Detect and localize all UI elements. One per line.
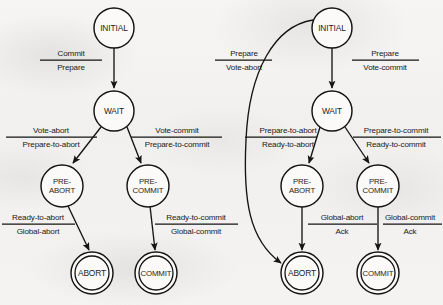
state-node-pre-abort[interactable]: PRE- ABORT <box>41 165 83 207</box>
state-node-label-line1: PRE- <box>369 177 388 186</box>
edge-label-wait-precommit: Prepare-to-commit Ready-to-commit <box>353 126 441 149</box>
state-node-initial[interactable]: INITIAL <box>312 8 352 48</box>
state-node-abort[interactable]: ABORT <box>71 252 113 294</box>
state-diagram-figure: Commit Prepare Vote-abort Prepare-to-abo… <box>0 0 443 305</box>
state-node-label: COMMIT <box>362 269 393 278</box>
state-node-pre-abort[interactable]: PRE- ABORT <box>281 165 323 207</box>
state-node-label-line1: PRE- <box>53 177 72 186</box>
edge-label-initial-wait: Prepare Vote-commit <box>352 49 419 72</box>
edge-label-initial-wait: Commit Prepare <box>40 49 102 72</box>
edge-label-bottom: Prepare <box>57 63 85 72</box>
state-node-label: WAIT <box>104 106 124 116</box>
edge-label-preabort-abort: Global-abort Ack <box>308 213 377 236</box>
edge-label-top: Prepare-to-commit <box>364 126 429 135</box>
state-node-label: WAIT <box>322 106 342 116</box>
edge-label-bottom: Ack <box>335 227 349 236</box>
coordinator-state-diagram: Commit Prepare Vote-abort Prepare-to-abo… <box>2 8 238 294</box>
state-node-commit[interactable]: COMMIT <box>135 252 177 294</box>
edge-label-bottom: Ready-to-abort <box>262 140 315 149</box>
state-node-label-line2: COMMIT <box>132 186 163 195</box>
state-node-label: COMMIT <box>140 269 171 278</box>
edge-label-top: Prepare-to-abort <box>260 126 318 135</box>
state-node-initial[interactable]: INITIAL <box>94 8 134 48</box>
state-node-commit[interactable]: COMMIT <box>357 252 399 294</box>
edge-label-bottom: Prepare-to-commit <box>145 140 210 149</box>
edge-label-precommit-commit: Ready-to-commit Global-commit <box>155 213 238 236</box>
edge-label-bottom: Ack <box>403 227 417 236</box>
edge-label-bottom: Global-commit <box>171 227 222 236</box>
edge-label-top: Ready-to-abort <box>12 213 65 222</box>
edge-label-wait-precommit: Vote-commit Prepare-to-commit <box>131 126 222 149</box>
edge-label-bottom: Vote-commit <box>363 63 407 72</box>
edge-label-initial-abort: Prepare Vote-abort <box>215 49 272 72</box>
edge-label-top: Prepare <box>230 49 258 58</box>
edge-label-top: Global-abort <box>321 213 365 222</box>
edge-label-top: Prepare <box>371 49 399 58</box>
edge-label-bottom: Global-abort <box>17 227 61 236</box>
state-node-label: INITIAL <box>100 23 128 33</box>
edge-label-preabort-abort: Ready-to-abort Global-abort <box>2 213 75 236</box>
edge-label-bottom: Ready-to-commit <box>366 140 426 149</box>
edge-label-top: Vote-abort <box>33 126 70 135</box>
state-diagram-canvas: Commit Prepare Vote-abort Prepare-to-abo… <box>0 0 443 305</box>
edge-label-wait-preabort: Vote-abort Prepare-to-abort <box>6 126 97 149</box>
state-node-label-line1: PRE- <box>139 177 158 186</box>
state-node-label-line2: ABORT <box>49 186 76 195</box>
state-node-label-line2: COMMIT <box>362 186 393 195</box>
state-node-wait[interactable]: WAIT <box>312 91 352 131</box>
state-node-label-line1: PRE- <box>293 177 312 186</box>
state-node-label: ABORT <box>288 268 316 278</box>
edge-label-top: Commit <box>58 49 86 58</box>
state-node-wait[interactable]: WAIT <box>94 91 134 131</box>
state-node-pre-commit[interactable]: PRE- COMMIT <box>357 165 399 207</box>
state-node-label: ABORT <box>78 268 106 278</box>
state-node-label-line2: ABORT <box>289 186 316 195</box>
edge-label-bottom: Prepare-to-abort <box>23 140 81 149</box>
state-node-abort[interactable]: ABORT <box>281 252 323 294</box>
edge-label-top: Vote-commit <box>155 126 199 135</box>
edge-label-precommit-commit: Global-commit Ack <box>383 213 442 236</box>
state-node-label: INITIAL <box>318 23 346 33</box>
participant-state-diagram: Prepare Vote-abort Prepare Vote-commit P… <box>215 8 442 294</box>
edge-label-wait-preabort: Prepare-to-abort Ready-to-abort <box>245 126 317 149</box>
edge-precommit-commit <box>150 206 155 250</box>
state-node-pre-commit[interactable]: PRE- COMMIT <box>127 165 169 207</box>
edge-wait-precommit <box>127 127 141 163</box>
edge-preabort-abort <box>68 206 89 250</box>
edge-label-top: Global-commit <box>385 213 436 222</box>
edge-label-bottom: Vote-abort <box>226 63 263 72</box>
edge-label-top: Ready-to-commit <box>166 213 226 222</box>
